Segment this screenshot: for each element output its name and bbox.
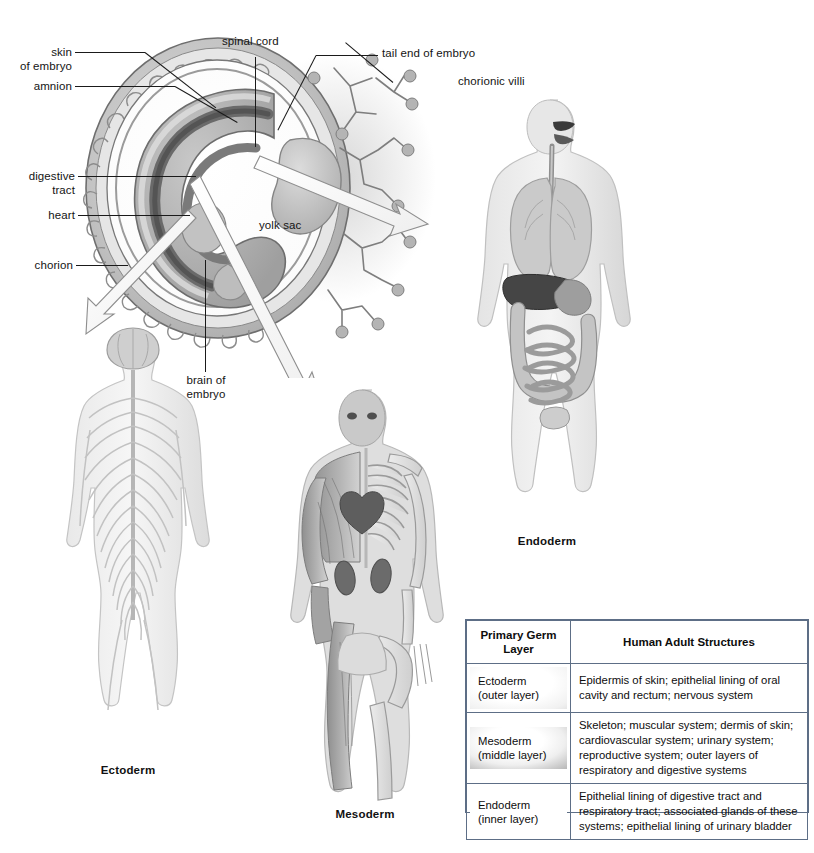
endoderm-figure-illustration bbox=[455, 92, 645, 522]
figure-canvas: skin of embryo amnion spinal cord tail e… bbox=[0, 0, 814, 853]
layer-sub-endoderm: (inner layer) bbox=[478, 812, 559, 826]
caption-ectoderm: Ectoderm bbox=[48, 764, 208, 776]
urinary-bladder bbox=[540, 407, 570, 429]
layer-name-mesoderm: Mesoderm bbox=[478, 734, 559, 748]
label-chorionic-villi: chorionic villi bbox=[458, 75, 525, 89]
label-brain-of-embryo: brain of embryo bbox=[158, 374, 254, 401]
cell-layer-endoderm: Endoderm (inner layer) bbox=[467, 784, 571, 840]
label-heart: heart bbox=[0, 209, 75, 223]
header-primary-germ-layer: Primary Germ Layer bbox=[467, 621, 571, 664]
table-row-endoderm: Endoderm (inner layer) Epithelial lining… bbox=[467, 784, 808, 840]
table-row-mesoderm: Mesoderm (middle layer) Skeleton; muscul… bbox=[467, 713, 808, 784]
label-digestive-tract: digestive tract bbox=[0, 170, 75, 197]
label-chorion: chorion bbox=[0, 259, 73, 273]
layer-name-endoderm: Endoderm bbox=[478, 798, 559, 812]
cell-layer-ectoderm: Ectoderm (outer layer) bbox=[467, 664, 571, 713]
header-human-adult-structures: Human Adult Structures bbox=[571, 621, 808, 664]
cell-layer-mesoderm: Mesoderm (middle layer) bbox=[467, 713, 571, 784]
cell-structures-ectoderm: Epidermis of skin; epithelial lining of … bbox=[571, 664, 808, 713]
caption-endoderm: Endoderm bbox=[467, 535, 627, 547]
layer-sub-mesoderm: (middle layer) bbox=[478, 748, 559, 762]
mesoderm-figure-illustration bbox=[262, 382, 462, 812]
label-amnion: amnion bbox=[0, 80, 72, 94]
cell-structures-mesoderm: Skeleton; muscular system; dermis of ski… bbox=[571, 713, 808, 784]
cell-structures-endoderm: Epithelial lining of digestive tract and… bbox=[571, 784, 808, 840]
table-header-row: Primary Germ Layer Human Adult Structure… bbox=[467, 621, 808, 664]
label-yolk-sac: yolk sac bbox=[259, 219, 301, 233]
table-row-ectoderm: Ectoderm (outer layer) Epidermis of skin… bbox=[467, 664, 808, 713]
label-tail-end-of-embryo: tail end of embryo bbox=[382, 47, 475, 61]
layer-name-ectoderm: Ectoderm bbox=[478, 674, 559, 688]
germ-layer-table: Primary Germ Layer Human Adult Structure… bbox=[465, 619, 809, 813]
pelvic-girdle bbox=[338, 633, 387, 675]
layer-sub-ectoderm: (outer layer) bbox=[478, 688, 559, 702]
label-spinal-cord: spinal cord bbox=[222, 35, 279, 49]
caption-mesoderm: Mesoderm bbox=[285, 808, 445, 820]
label-skin-of-embryo: skin of embryo bbox=[0, 46, 72, 73]
